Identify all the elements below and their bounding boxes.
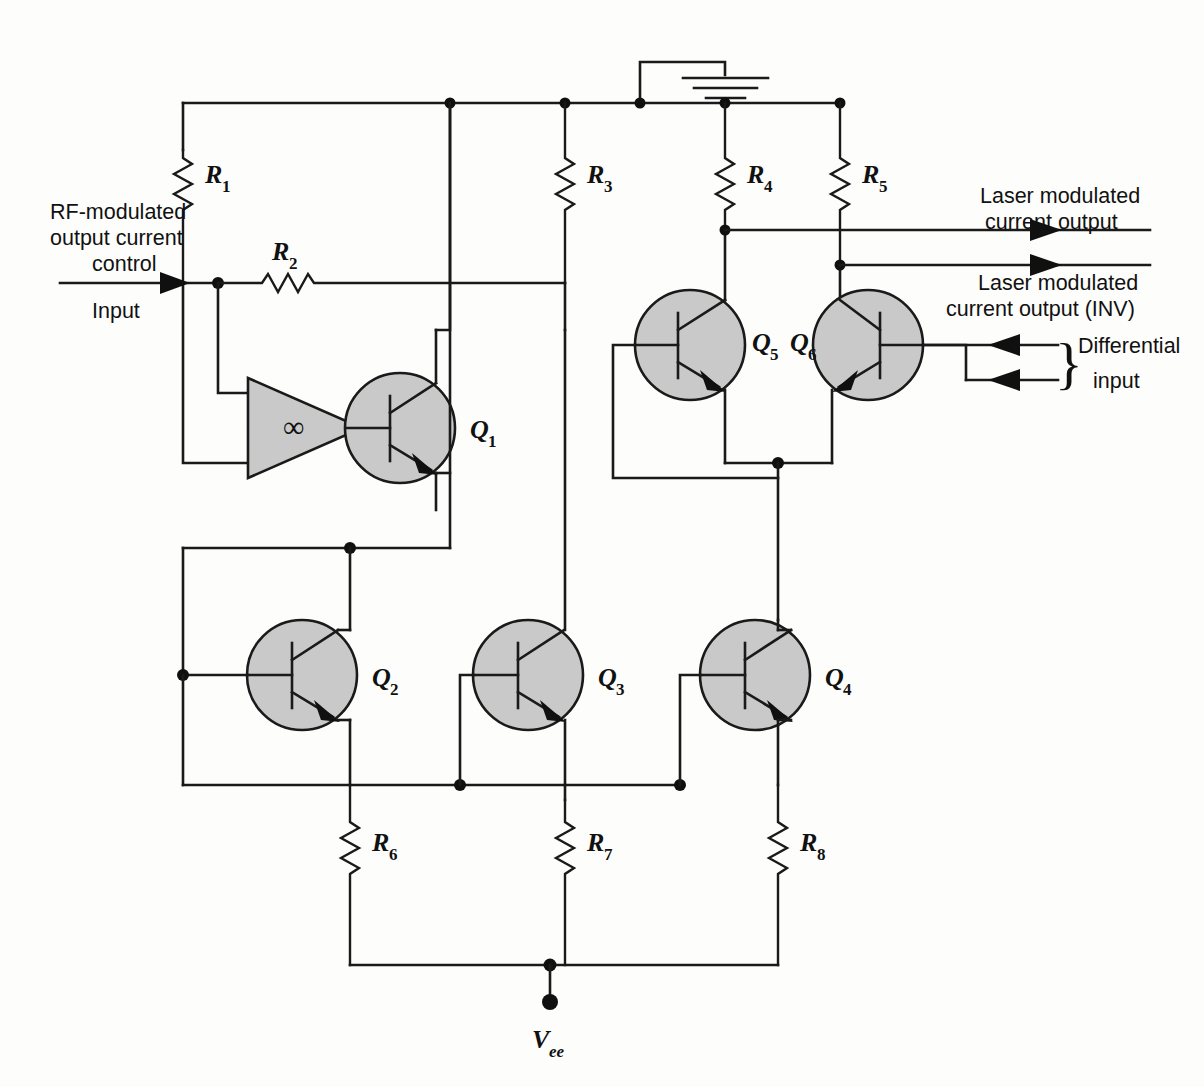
bottom-supply-rail [350,959,778,1011]
resistor-r8 [769,785,787,965]
label-q3: Q [598,663,617,692]
transistor-q5 [635,290,745,463]
differential-input-annotation: } Differential input [1055,331,1180,396]
transistor-q6 [813,290,923,463]
wire-r1-to-opamp-lower [183,283,248,463]
differential-input-line-bottom [966,369,1058,391]
wire-q2-base [177,669,248,785]
diff-input-arrow-head-top [988,334,1020,356]
label-r1: R [204,160,222,189]
diff-label-line1: Differential [1078,334,1180,358]
output1-line1: Laser modulated [980,184,1140,208]
output-annotation: Laser modulated current output Laser mod… [946,184,1140,321]
label-r3: R [586,160,604,189]
top-supply-rail [183,98,846,151]
mid-emitter-bus [183,779,686,791]
diff-label-line2: input [1093,369,1140,393]
label-r6-sub: 6 [389,845,398,864]
label-r8-sub: 8 [817,845,826,864]
label-r6: R [371,828,389,857]
wire-node-to-opamp-upper [218,283,248,393]
ground-symbol [640,62,768,103]
label-q2: Q [372,663,391,692]
input-label-line1: RF-modulated [50,200,186,224]
input-label-line4: Input [92,299,140,323]
transistor-q1 [345,330,455,510]
label-vee-sub: ee [549,1042,565,1061]
label-r4: R [746,160,764,189]
diff-pair-tail-node [725,457,832,620]
wire-q6-base-route [923,345,966,380]
label-r5-sub: 5 [879,177,888,196]
transistor-q3 [473,620,583,730]
label-q4: Q [825,663,844,692]
input-annotation: RF-modulated output current control Inpu… [50,200,186,323]
input-label-line3: control [92,252,157,276]
label-q3-sub: 3 [616,680,625,699]
label-r2-sub: 2 [289,254,298,273]
wire-q3-base-route [460,675,474,785]
junction-dot [635,98,646,109]
label-q5: Q [752,328,771,357]
resistor-r7 [556,800,574,965]
label-q1-sub: 1 [488,432,497,451]
input-label-line2: output current [50,226,183,250]
resistor-r6 [341,785,359,965]
label-q1: Q [470,415,489,444]
label-q2-sub: 2 [390,680,399,699]
schematic-svg: ∞ [0,0,1204,1087]
vee-terminal-dot [542,994,558,1010]
resistor-r3 [556,103,574,283]
label-r7-sub: 7 [604,845,613,864]
circuit-diagram: ∞ [0,0,1204,1087]
label-r8: R [799,828,817,857]
label-r7: R [586,828,604,857]
input-arrow-head [160,272,190,294]
transistor-q2 [247,620,357,730]
component-labels: R 1 R 2 R 3 R 4 R 5 R 6 R 7 R 8 Q 1 Q 2 … [204,160,888,1061]
transistor-q4 [700,620,810,730]
resistor-r5 [831,103,849,300]
wire-q1-collector-to-rail [436,103,450,548]
diff-input-arrow-head-bottom [988,369,1020,391]
wire-q4-base-route [680,675,701,785]
label-r4-sub: 4 [764,177,773,196]
resistor-r2 [218,274,565,292]
label-q6-sub: 6 [808,345,817,364]
output2-line1: Laser modulated [978,271,1138,295]
label-r5: R [861,160,879,189]
label-q5-sub: 5 [770,345,779,364]
label-r2: R [271,237,289,266]
wire-q4-emitter-to-r8 [778,720,791,785]
resistor-r4 [716,103,734,300]
output1-line2: current output [985,210,1118,234]
label-q6: Q [790,328,809,357]
label-q4-sub: 4 [843,680,852,699]
label-r1-sub: 1 [222,177,231,196]
opamp-infinity-symbol: ∞ [283,410,304,443]
label-r3-sub: 3 [604,177,613,196]
output2-line2: current output (INV) [946,297,1135,321]
